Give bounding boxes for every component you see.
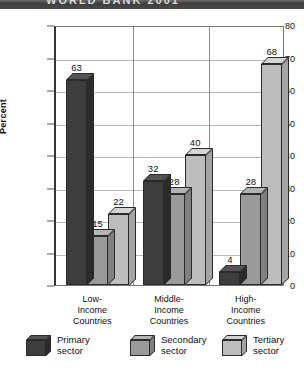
x-axis-category-line: Countries — [203, 316, 289, 327]
bar-value-label: 40 — [190, 137, 201, 148]
legend-label-line1: Tertiary — [253, 334, 284, 345]
y-axis-tick-mark — [47, 221, 54, 222]
bar-value-label: 63 — [71, 62, 82, 73]
bar-side-face — [206, 148, 213, 285]
bar-value-label: 28 — [246, 176, 257, 187]
legend-label-line2: sector — [253, 345, 284, 356]
legend-label: Secondarysector — [161, 334, 206, 356]
bar-side-face — [261, 187, 268, 285]
legend-label-line1: Secondary — [161, 334, 206, 345]
y-axis-title: Percent — [0, 99, 8, 134]
x-axis-category-line: Income — [203, 305, 289, 316]
x-axis-category-line: Low- — [49, 294, 135, 305]
legend-swatch-front — [26, 340, 46, 356]
legend-label: Primarysector — [57, 334, 90, 356]
bar-value-label: 4 — [227, 254, 232, 265]
legend-swatch-icon — [130, 335, 156, 356]
legend-item-tertiary-sector[interactable]: Tertiarysector — [222, 334, 284, 356]
y-axis-tick-mark — [47, 26, 54, 27]
bar-front-face — [66, 80, 87, 285]
x-axis-category-label: Low-IncomeCountries — [49, 294, 135, 327]
bar-side-face — [87, 73, 94, 285]
x-axis-category-line: Income — [49, 305, 135, 316]
legend-label-line2: sector — [161, 345, 206, 356]
legend-swatch-front — [222, 340, 242, 356]
x-axis-category-line: Income — [126, 305, 212, 316]
legend-swatch-icon — [222, 335, 248, 356]
y-axis-tick-mark — [47, 58, 54, 59]
y-axis-tick-mark — [47, 253, 54, 254]
bar-front-face — [219, 272, 240, 285]
y-axis-tick-mark — [47, 91, 54, 92]
y-axis-tick-mark — [47, 156, 54, 157]
bar-side-face — [185, 187, 192, 285]
bar-value-label: 32 — [148, 163, 159, 174]
bar-primary-sector-group-2: 32 — [143, 181, 164, 285]
x-axis-category-line: Countries — [49, 316, 135, 327]
title-band-text: WORLD BANK 2001 — [46, 0, 180, 6]
x-axis-category-label: Middle-IncomeCountries — [126, 294, 212, 327]
bar-primary-sector-group-3: 4 — [219, 272, 240, 285]
x-axis-category-line: Countries — [126, 316, 212, 327]
y-axis-tick-mark — [47, 286, 54, 287]
legend-label: Tertiarysector — [253, 334, 284, 356]
horizontal-gridline — [56, 60, 283, 61]
bar-side-face — [108, 229, 115, 285]
bar-primary-sector-group-1: 63 — [66, 80, 87, 285]
x-axis-category-line: High- — [203, 294, 289, 305]
legend-label-line2: sector — [57, 345, 90, 356]
bar-value-label: 68 — [267, 46, 278, 57]
legend-item-primary-sector[interactable]: Primarysector — [26, 334, 90, 356]
title-band: WORLD BANK 2001 — [0, 0, 304, 9]
legend-label-line1: Primary — [57, 334, 90, 345]
legend-swatch-front — [130, 340, 150, 356]
y-axis-tick-mark — [47, 123, 54, 124]
bar-side-face — [164, 174, 171, 285]
bar-value-label: 22 — [113, 196, 124, 207]
y-axis-tick-mark — [47, 188, 54, 189]
bar-front-face — [143, 181, 164, 285]
legend-swatch-icon — [26, 335, 52, 356]
chart-plot-wrapper: Percent 01020304050607080 63152232284042… — [0, 9, 304, 309]
bar-side-face — [129, 207, 136, 286]
plot-area: 63152232284042868 — [54, 26, 284, 286]
chart-legend: PrimarysectorSecondarysectorTertiarysect… — [0, 330, 304, 374]
x-axis-category-line: Middle- — [126, 294, 212, 305]
bar-side-face — [282, 57, 289, 285]
x-axis-category-label: High-IncomeCountries — [203, 294, 289, 327]
legend-item-secondary-sector[interactable]: Secondarysector — [130, 334, 206, 356]
